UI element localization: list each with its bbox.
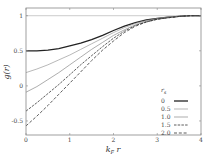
- x-tick-label: 0: [24, 136, 28, 143]
- y-axis-label: g(r): [2, 64, 11, 79]
- legend: rs00.51.01.52.0: [161, 86, 188, 136]
- plot-frame: [26, 8, 201, 135]
- x-axis-label: kF r: [106, 145, 122, 155]
- y-tick-label: 0.5: [13, 47, 23, 54]
- y-tick-label: 0: [19, 82, 23, 89]
- axis-ticks: 01234-0.500.51: [11, 8, 203, 143]
- legend-label: 1.5: [161, 121, 171, 128]
- series-line-rs-0: [26, 16, 201, 51]
- x-tick-label: 1: [68, 136, 72, 143]
- x-tick-label: 3: [155, 136, 159, 143]
- y-tick-label: -0.5: [11, 117, 23, 124]
- y-tick-label: 1: [19, 12, 23, 19]
- legend-label: 0: [161, 97, 165, 104]
- legend-label: 0.5: [161, 105, 171, 112]
- x-tick-label: 4: [199, 136, 203, 143]
- legend-label: 2.0: [161, 129, 171, 136]
- plot-area: [26, 16, 201, 126]
- series-line-rs-0.5: [26, 16, 201, 73]
- legend-title: rs: [161, 86, 167, 95]
- legend-label: 1.0: [161, 113, 171, 120]
- series-line-rs-1.0: [26, 16, 201, 93]
- pair-correlation-chart: 01234-0.500.51 kF r g(r) rs00.51.01.52.0: [0, 0, 208, 160]
- x-tick-label: 2: [112, 136, 116, 143]
